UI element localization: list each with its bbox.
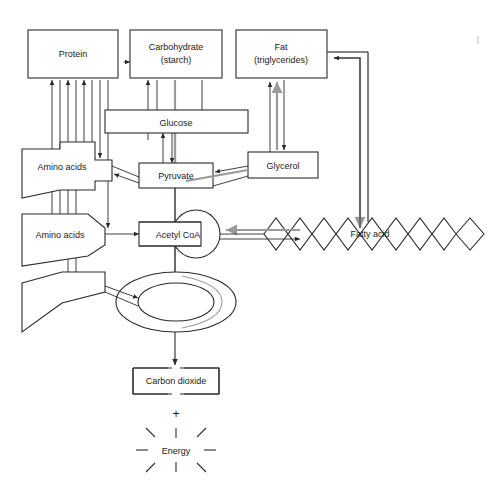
glucose-node[interactable]: Glucose bbox=[105, 110, 248, 133]
acetyl-coa-node[interactable]: Acetyl CoA bbox=[139, 210, 220, 258]
carbohydrate-label-line1: Carbohydrate bbox=[149, 42, 204, 52]
amino-acids-lower-label: Amino acids bbox=[35, 230, 85, 240]
amino-acids-upper-label: Amino acids bbox=[37, 162, 87, 172]
fat-label-line2: (triglycerides) bbox=[254, 55, 308, 65]
amino-acids-lower-node[interactable]: Amino acids bbox=[22, 214, 105, 266]
fat-node[interactable]: Fat (triglycerides) bbox=[236, 30, 327, 78]
energy-label: Energy bbox=[162, 446, 191, 456]
fat-label-line1: Fat bbox=[274, 42, 288, 52]
fatty-acid-label: Fatty acid bbox=[350, 229, 389, 239]
carbon-dioxide-label: Carbon dioxide bbox=[146, 376, 207, 386]
glycerol-node[interactable]: Glycerol bbox=[248, 152, 318, 178]
fat-glycerol-arrows bbox=[270, 80, 284, 152]
metabolic-pathway-diagram: Protein Carbohydrate (starch) Fat (trigl… bbox=[0, 0, 492, 502]
glycerol-label: Glycerol bbox=[266, 161, 299, 171]
mitochondrion-node[interactable] bbox=[116, 272, 236, 332]
protein-label: Protein bbox=[59, 49, 88, 59]
protein-node[interactable]: Protein bbox=[28, 30, 118, 78]
pyruvate-node[interactable]: Pyruvate bbox=[139, 163, 213, 188]
plus-sign: + bbox=[172, 407, 179, 421]
glucose-label: Glucose bbox=[159, 118, 192, 128]
carbon-dioxide-node[interactable]: Carbon dioxide bbox=[133, 368, 219, 394]
carbohydrate-label-line2: (starch) bbox=[161, 55, 192, 65]
fat-fattyacid-loop bbox=[327, 52, 368, 228]
fatty-acid-node[interactable]: Fatty acid bbox=[264, 218, 484, 250]
amino-acids-upper-node[interactable]: Amino acids bbox=[22, 142, 112, 198]
acetyl-coa-label: Acetyl CoA bbox=[156, 230, 201, 240]
lower-left-trapezoid bbox=[22, 272, 105, 332]
protein-output-arrows bbox=[100, 80, 108, 228]
energy-node[interactable]: Energy bbox=[136, 428, 216, 472]
aminoacids-pyruvate-arrows bbox=[112, 166, 139, 183]
carbohydrate-node[interactable]: Carbohydrate (starch) bbox=[124, 30, 222, 78]
